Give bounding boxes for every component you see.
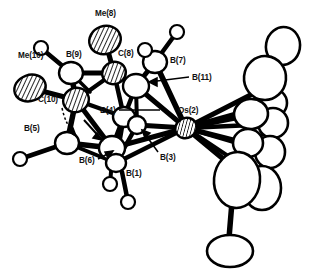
label-b1: B(1)	[126, 169, 142, 178]
label-b7: B(7)	[170, 56, 186, 65]
label-b11: B(11)	[192, 73, 212, 82]
structure-canvas: Me(8) Me(10) B(9) C(8) B(7) B(11) C(10) …	[0, 0, 311, 276]
label-b6: B(6)	[79, 156, 95, 165]
label-c8: C(8)	[118, 49, 134, 58]
label-me8: Me(8)	[95, 9, 116, 18]
label-b5: B(5)	[24, 124, 40, 133]
label-b9: B(9)	[66, 50, 82, 59]
label-b4: B(4)	[100, 106, 116, 115]
label-me10: Me(10)	[18, 51, 44, 60]
ortep-structure-figure: Me(8) Me(10) B(9) C(8) B(7) B(11) C(10) …	[0, 0, 311, 276]
atom-hydrogen	[138, 43, 152, 57]
atom-hydrogen	[170, 25, 184, 39]
label-os2: Os(2)	[178, 106, 199, 115]
label-c10: C(10)	[38, 95, 58, 104]
atom-b9	[59, 62, 83, 84]
atom-hydrogen	[13, 152, 27, 166]
ligand-ellipsoid	[207, 235, 253, 267]
atom-b11	[123, 74, 149, 98]
label-b3: B(3)	[160, 153, 176, 162]
atom-hydrogen	[103, 177, 117, 191]
atom-hydrogen	[121, 195, 135, 209]
